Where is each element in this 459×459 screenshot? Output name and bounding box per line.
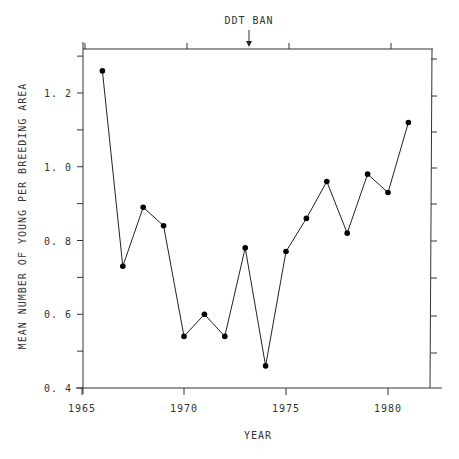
ddt-ban-annotation: DDT BAN [224,15,273,47]
data-point [365,171,371,177]
data-point [222,334,228,340]
y-axis-right [430,49,432,388]
x-tick-label: 1970 [170,403,198,414]
x-tick-label: 1965 [68,403,96,414]
data-point [120,264,126,270]
data-point [181,334,187,340]
y-tick-label: 1. 0 [44,162,72,173]
top-axis-ticks [85,43,391,49]
x-axis-label: YEAR [244,430,272,441]
data-point [344,230,350,236]
data-point [304,216,310,222]
y-tick-label: 0. 8 [44,236,72,247]
data-series-line [102,71,408,366]
data-point [242,245,248,251]
data-point [406,120,412,126]
arrow-down-icon [246,41,252,47]
y-tick-label: 0. 6 [44,309,72,320]
y-tick-label: 0. 4 [44,383,72,394]
data-point [263,363,269,369]
annotation-label: DDT BAN [224,15,273,26]
y-axis-label: MEAN NUMBER OF YOUNG PER BREEDING AREA [17,83,28,350]
data-points [100,68,412,369]
data-point [324,179,330,185]
y-tick-label: 1. 2 [44,88,72,99]
data-point [161,223,167,229]
plot-frame [76,42,442,394]
data-point [140,205,146,211]
line-chart: 1965197019751980 0. 40. 60. 81. 01. 2 DD… [0,0,459,459]
data-point [283,249,289,255]
data-point [100,68,106,74]
x-tick-label: 1980 [374,403,402,414]
data-point [385,190,391,196]
y-ticks: 0. 40. 60. 81. 01. 2 [44,56,83,394]
data-point [202,311,208,317]
x-tick-label: 1975 [272,403,300,414]
x-ticks: 1965197019751980 [68,388,402,414]
